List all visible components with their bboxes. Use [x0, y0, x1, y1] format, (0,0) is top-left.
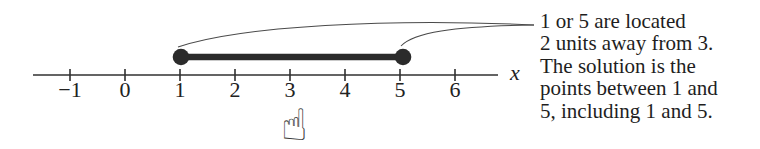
- tick-label: 4: [340, 79, 351, 101]
- tick-label: 1: [175, 79, 186, 101]
- tick-label: 0: [120, 79, 131, 101]
- tick-label: 6: [450, 79, 461, 101]
- annotation-line: 1 or 5 are located: [540, 10, 758, 32]
- annotation-line: 2 units away from 3.: [540, 32, 758, 54]
- endpoint-dot-5: [395, 49, 412, 66]
- endpoint-dot-1: [173, 49, 190, 66]
- axis-variable-label: x: [510, 62, 520, 84]
- pointing-hand-icon: ☝: [281, 103, 308, 147]
- leader-line-from-1: [178, 23, 534, 47]
- annotation-line: points between 1 and: [540, 77, 758, 99]
- tick-label: 5: [395, 79, 406, 101]
- annotation-line: The solution is the: [540, 55, 758, 77]
- annotation-line: 5, including 1 and 5.: [540, 100, 758, 122]
- tick-label: 2: [230, 79, 241, 101]
- number-line-figure: −1 0 1 2 3 4 5 6 x ☝ 1 or 5 are located …: [0, 0, 760, 149]
- leader-line-from-5: [401, 25, 534, 46]
- annotation-text: 1 or 5 are located 2 units away from 3. …: [540, 10, 758, 122]
- tick-label: −1: [58, 79, 81, 101]
- tick-label: 3: [285, 79, 296, 101]
